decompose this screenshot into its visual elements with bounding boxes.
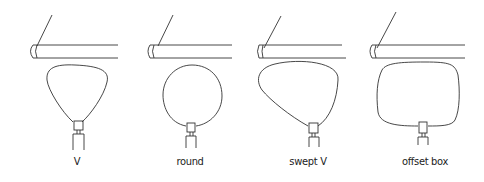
panel-swept-v-drawing — [258, 16, 347, 147]
label-offset-box: offset box — [380, 155, 470, 168]
label-v: V — [32, 155, 122, 168]
panel-round-drawing — [148, 15, 232, 148]
panel-offset-box-drawing — [370, 12, 465, 145]
panel-v-drawing — [31, 15, 119, 150]
label-round: round — [145, 155, 235, 168]
label-swept-v: swept V — [263, 155, 353, 168]
